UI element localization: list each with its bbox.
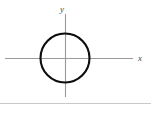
y-axis-label: y: [59, 4, 64, 14]
x-axis-label: x: [137, 53, 142, 63]
figure-canvas: y x: [0, 0, 151, 114]
cartesian-circle-figure: y x: [0, 0, 151, 114]
